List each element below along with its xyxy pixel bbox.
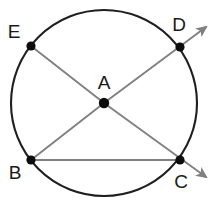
point-B [26,155,35,164]
point-label-A: A [98,72,111,93]
ray-A-to-D [104,27,206,103]
segment-E-to-A [31,46,104,103]
point-label-C: C [174,171,188,192]
point-label-D: D [172,14,186,35]
point-D [175,42,184,51]
geometry-diagram: A B C D E [0,0,216,203]
ray-A-to-C [104,103,206,177]
point-label-E: E [8,21,21,42]
point-C [175,155,184,164]
point-E [26,41,35,50]
point-label-B: B [9,162,22,183]
geometry-figure: A B C D E [0,0,216,203]
point-A [99,98,109,108]
segment-B-to-A [31,103,104,160]
